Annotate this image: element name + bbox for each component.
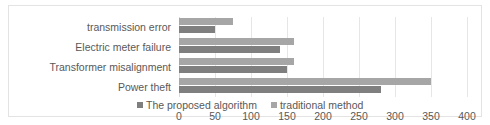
square-marker-icon [271, 102, 277, 108]
bar-proposed-algorithm [179, 66, 287, 73]
gridline-400 [467, 17, 468, 97]
plot-area [179, 17, 467, 97]
category-label: transmission error [87, 17, 171, 37]
bar-proposed-algorithm [179, 86, 381, 93]
bar-group-electric-meter-failure [179, 37, 467, 57]
bar-group-power-theft [179, 77, 467, 97]
bar-group-transmission-error [179, 17, 467, 37]
category-label: Power theft [118, 77, 171, 97]
legend-label: The proposed algorithm [146, 99, 257, 111]
value-axis-tick-labels: 0 50 100 150 200 250 300 350 400 [179, 110, 467, 124]
legend-label: traditional method [280, 99, 363, 111]
bar-proposed-algorithm [179, 26, 215, 33]
bar-proposed-algorithm [179, 46, 280, 53]
tick-label: 250 [350, 110, 368, 122]
tick-label: 300 [386, 110, 404, 122]
category-label: Electric meter failure [75, 37, 171, 57]
tick-label: 0 [176, 110, 182, 122]
legend-item-proposed-algorithm: The proposed algorithm [137, 99, 257, 111]
bar-traditional-method [179, 78, 431, 85]
bar-traditional-method [179, 38, 294, 45]
bar-group-transformer-misalignment [179, 57, 467, 77]
tick-label: 150 [278, 110, 296, 122]
bar-traditional-method [179, 58, 294, 65]
legend-item-traditional-method: traditional method [271, 99, 363, 111]
tick-label: 50 [209, 110, 221, 122]
square-marker-icon [137, 102, 143, 108]
tick-label: 400 [458, 110, 476, 122]
tick-label: 200 [314, 110, 332, 122]
category-label: Transformer misalignment [49, 57, 171, 77]
bar-chart: transmission error Electric meter failur… [0, 0, 490, 125]
tick-label: 100 [242, 110, 260, 122]
chart-frame: transmission error Electric meter failur… [8, 5, 482, 117]
category-axis-labels: transmission error Electric meter failur… [21, 17, 175, 97]
tick-label: 350 [422, 110, 440, 122]
bar-traditional-method [179, 18, 233, 25]
